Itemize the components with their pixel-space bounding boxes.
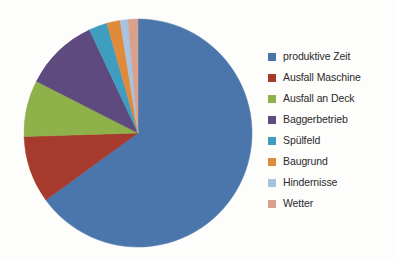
legend-item-label: produktive Zeit bbox=[283, 46, 350, 67]
legend-item-label: Spülfeld bbox=[283, 130, 320, 151]
legend-item-label: Wetter bbox=[283, 193, 313, 214]
pie-plot-area bbox=[0, 0, 262, 260]
legend-item[interactable]: Wetter bbox=[268, 193, 395, 214]
legend-swatch-icon bbox=[268, 53, 276, 61]
legend-item-label: Hindernisse bbox=[283, 172, 337, 193]
legend-swatch-icon bbox=[268, 137, 276, 145]
legend-item-label: Ausfall an Deck bbox=[283, 88, 354, 109]
legend-swatch-icon bbox=[268, 179, 276, 187]
legend-item-label: Baggerbetrieb bbox=[283, 109, 348, 130]
legend-item-label: Ausfall Maschine bbox=[283, 67, 361, 88]
pie-slices-group bbox=[24, 19, 252, 247]
legend-swatch-icon bbox=[268, 116, 276, 124]
legend-item[interactable]: Hindernisse bbox=[268, 172, 395, 193]
legend-item[interactable]: produktive Zeit bbox=[268, 46, 395, 67]
legend-item[interactable]: Baggerbetrieb bbox=[268, 109, 395, 130]
pie-svg bbox=[0, 0, 262, 260]
legend-item[interactable]: Ausfall an Deck bbox=[268, 88, 395, 109]
legend-swatch-icon bbox=[268, 74, 276, 82]
legend-item-label: Baugrund bbox=[283, 151, 328, 172]
legend-item[interactable]: Baugrund bbox=[268, 151, 395, 172]
pie-chart-figure: produktive Zeit Ausfall Maschine Ausfall… bbox=[0, 0, 395, 260]
legend-swatch-icon bbox=[268, 158, 276, 166]
legend-item[interactable]: Spülfeld bbox=[268, 130, 395, 151]
chart-legend: produktive Zeit Ausfall Maschine Ausfall… bbox=[266, 0, 395, 260]
legend-swatch-icon bbox=[268, 200, 276, 208]
legend-item[interactable]: Ausfall Maschine bbox=[268, 67, 395, 88]
legend-swatch-icon bbox=[268, 95, 276, 103]
